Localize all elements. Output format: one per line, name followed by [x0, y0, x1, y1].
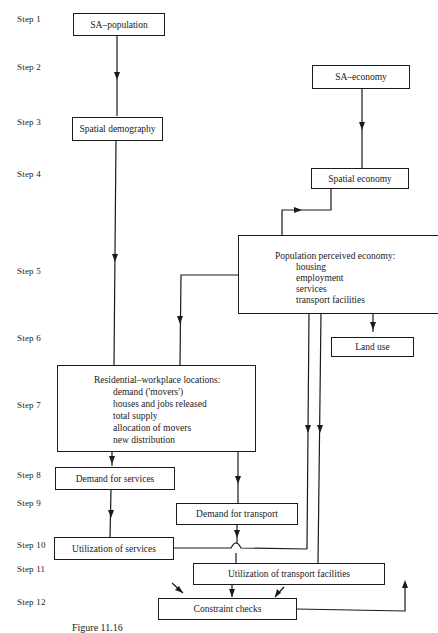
perceived-economy-item: services: [296, 284, 327, 294]
box-utilization-of-services: Utilization of services: [54, 537, 174, 560]
box-residential-workplace: Residential–workplace locations: demand …: [57, 365, 256, 452]
box-demand-for-services: Demand for services: [55, 467, 175, 490]
residential-workplace-item: houses and jobs released: [113, 399, 207, 409]
box-sa-economy: SA–economy: [312, 65, 410, 89]
step-label-8: Step 8: [17, 470, 41, 480]
residential-workplace-item: allocation of movers: [113, 423, 191, 433]
residential-workplace-title: Residential–workplace locations:: [94, 375, 220, 385]
step-label-10: Step 10: [17, 540, 46, 550]
box-constraint-checks: Constraint checks: [158, 598, 297, 620]
residential-workplace-item: demand ('movers'): [113, 387, 183, 397]
figure-caption: Figure 11.16: [72, 622, 123, 633]
step-label-3: Step 3: [17, 117, 41, 127]
box-land-use: Land use: [331, 337, 414, 357]
box-sa-population: SA–population: [73, 13, 165, 36]
step-label-2: Step 2: [17, 62, 41, 72]
step-label-7: Step 7: [17, 400, 41, 410]
step-label-6: Step 6: [17, 333, 41, 343]
box-utilization-of-transport: Utilization of transport facilities: [193, 563, 385, 585]
step-label-11: Step 11: [17, 564, 45, 574]
perceived-economy-item: transport facilities: [296, 295, 365, 305]
perceived-economy-item: employment: [296, 273, 344, 283]
perceived-economy-item: housing: [296, 262, 326, 272]
residential-workplace-item: new distribution: [113, 435, 175, 445]
perceived-economy-title: Population perceived economy:: [275, 251, 395, 261]
box-spatial-economy: Spatial economy: [311, 168, 409, 189]
box-demand-for-transport: Demand for transport: [176, 503, 298, 525]
residential-workplace-item: total supply: [113, 411, 158, 421]
step-label-9: Step 9: [17, 498, 41, 508]
step-label-5: Step 5: [17, 266, 41, 276]
box-spatial-demography: Spatial demography: [72, 117, 163, 141]
step-label-12: Step 12: [17, 597, 46, 607]
box-population-perceived-economy: Population perceived economy: housing em…: [238, 235, 438, 314]
step-label-4: Step 4: [17, 169, 41, 179]
step-label-1: Step 1: [17, 14, 41, 24]
